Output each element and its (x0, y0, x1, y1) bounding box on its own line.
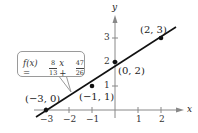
y-tick-label-2: 2 (104, 57, 110, 66)
data-point-neg3-0 (44, 108, 49, 113)
equation-lhs: f(x) = (23, 58, 47, 78)
fraction-intercept: 47 26 (76, 60, 84, 76)
fraction-slope: 8 13 (49, 60, 57, 76)
point-label-0-2: (0, 2) (118, 66, 145, 76)
x-axis-arrow-icon (176, 108, 184, 113)
point-label-2-3: (2, 3) (140, 25, 167, 35)
slope-numerator: 8 (51, 60, 55, 67)
intercept-denominator: 26 (76, 70, 84, 77)
x-tick-label-2: 2 (159, 115, 165, 124)
y-tick-label-1: 1 (104, 81, 110, 90)
slope-denominator: 13 (49, 70, 57, 77)
y-axis-arrow-icon (113, 15, 118, 23)
data-point-0-2 (113, 60, 118, 65)
equation-callout: f(x) = 8 13 x + 47 26 (17, 51, 85, 77)
x-tick-label-1: 1 (136, 115, 142, 124)
intercept-numerator: 47 (76, 60, 84, 67)
x-tick-label-neg2: −2 (63, 115, 76, 124)
equation-x-plus: x + (59, 58, 73, 78)
x-tick-label-neg3: −3 (40, 115, 53, 124)
data-point-2-3 (159, 36, 164, 41)
equation: f(x) = 8 13 x + 47 26 (23, 58, 84, 78)
x-tick-label-neg1: −1 (86, 115, 99, 124)
point-label-neg1-1: (−1, 1) (79, 92, 114, 102)
point-label-neg3-0: (−3, 0) (25, 94, 60, 104)
data-point-neg1-1 (90, 84, 95, 89)
y-axis-label: y (112, 3, 117, 12)
y-tick-label-3: 3 (104, 33, 110, 42)
x-axis-label: x (187, 105, 192, 114)
